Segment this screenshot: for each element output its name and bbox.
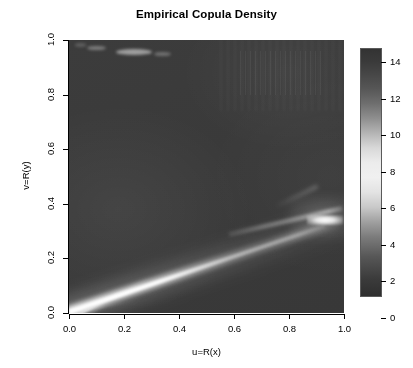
x-axis-tick-0.2 bbox=[124, 314, 125, 319]
y-axis-tick-label-0.0: 0.0 bbox=[45, 301, 56, 325]
x-axis-tick-label-0.6: 0.6 bbox=[222, 323, 247, 334]
y-axis-tick-0.8 bbox=[63, 95, 68, 96]
y-axis-tick-0.2 bbox=[63, 258, 68, 259]
page-title: Empirical Copula Density bbox=[0, 8, 413, 20]
x-axis-tick-label-0.2: 0.2 bbox=[112, 323, 137, 334]
y-axis-title: v=R(y) bbox=[20, 146, 31, 206]
x-axis-tick-0.8 bbox=[289, 314, 290, 319]
x-axis-tick-label-1.0: 1.0 bbox=[332, 323, 357, 334]
y-axis-tick-label-0.2: 0.2 bbox=[45, 246, 56, 270]
colorbar-tick-0 bbox=[381, 318, 386, 319]
colorbar-tick-8 bbox=[381, 172, 386, 173]
colorbar-label-6: 6 bbox=[390, 202, 395, 213]
y-axis-tick-1.0 bbox=[63, 40, 68, 41]
y-axis-tick-label-0.4: 0.4 bbox=[45, 191, 56, 215]
y-axis-tick-label-0.8: 0.8 bbox=[45, 82, 56, 106]
heatmap-noise-texture bbox=[69, 40, 344, 313]
x-axis-tick-label-0.4: 0.4 bbox=[167, 323, 192, 334]
colorbar-label-4: 4 bbox=[390, 239, 395, 250]
y-axis-tick-0.4 bbox=[63, 204, 68, 205]
x-axis-tick-0.0 bbox=[69, 314, 70, 319]
colorbar-tick-6 bbox=[381, 208, 386, 209]
colorbar-legend bbox=[360, 48, 382, 297]
colorbar-label-12: 12 bbox=[390, 93, 401, 104]
y-axis-tick-label-0.6: 0.6 bbox=[45, 137, 56, 161]
colorbar-tick-14 bbox=[381, 62, 386, 63]
colorbar-tick-4 bbox=[381, 245, 386, 246]
y-axis-tick-0.6 bbox=[63, 149, 68, 150]
colorbar-label-8: 8 bbox=[390, 166, 395, 177]
colorbar-label-0: 0 bbox=[390, 312, 395, 323]
x-axis-tick-1.0 bbox=[344, 314, 345, 319]
x-axis-tick-label-0.0: 0.0 bbox=[57, 323, 82, 334]
x-axis-tick-label-0.8: 0.8 bbox=[277, 323, 302, 334]
y-axis-line bbox=[68, 40, 69, 314]
colorbar-label-10: 10 bbox=[390, 129, 401, 140]
x-axis-tick-0.6 bbox=[234, 314, 235, 319]
colorbar-tick-12 bbox=[381, 99, 386, 100]
colorbar-tick-2 bbox=[381, 281, 386, 282]
colorbar-label-2: 2 bbox=[390, 275, 395, 286]
chart-root: Empirical Copula Density 1.0 0.8 0.6 0.4 bbox=[0, 0, 413, 368]
y-axis-tick-0.0 bbox=[63, 313, 68, 314]
y-axis-tick-label-1.0: 1.0 bbox=[45, 28, 56, 52]
heatmap-plot-area bbox=[69, 40, 344, 313]
x-axis-tick-0.4 bbox=[179, 314, 180, 319]
x-axis-title: u=R(x) bbox=[69, 346, 344, 357]
colorbar-label-14: 14 bbox=[390, 56, 401, 67]
x-axis-line bbox=[69, 314, 344, 315]
colorbar-tick-10 bbox=[381, 135, 386, 136]
